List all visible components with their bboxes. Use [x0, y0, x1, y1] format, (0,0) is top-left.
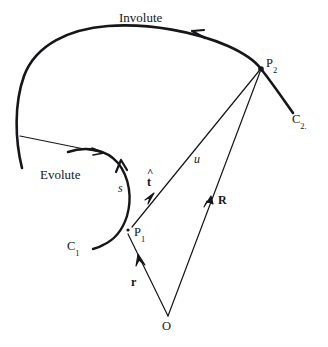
vector-r-arrowhead — [136, 254, 145, 266]
involute-label: Involute — [119, 11, 162, 24]
point-label-p1-subscript: 1 — [141, 234, 145, 244]
tangent-construction-line — [20, 136, 104, 153]
vector-u-label: u — [194, 153, 200, 165]
point-label-p1: P1 — [134, 226, 145, 241]
curve-label-c1-subscript: 1 — [75, 248, 79, 258]
tangent-hat-wrapper: ^t — [147, 176, 151, 188]
curve-label-c1: C1 — [67, 240, 80, 255]
involute-curve — [17, 25, 261, 168]
vector-R-label: R — [218, 194, 227, 206]
evolute-curve-tail — [93, 245, 103, 249]
point-marker-P2 — [258, 66, 264, 72]
involute-curve-tail — [261, 69, 293, 113]
figure-canvas: Involute Evolute P2 P1 C2. C1 O s ^t u r… — [0, 0, 328, 347]
origin-label: O — [162, 320, 171, 333]
point-marker-P1 — [126, 228, 129, 231]
point-label-p2-base: P — [266, 56, 273, 70]
curve-label-c2-subscript: 2. — [300, 121, 306, 131]
evolute-label: Evolute — [40, 168, 80, 181]
vector-u-line — [132, 71, 259, 227]
curve-label-c2: C2. — [292, 113, 307, 128]
tangent-hat-icon: ^ — [147, 167, 151, 178]
tangent-unit-vector-label: ^t — [147, 176, 151, 188]
point-label-p1-base: P — [134, 225, 141, 239]
arc-length-label: s — [118, 182, 123, 194]
vector-r-label: r — [131, 276, 136, 288]
point-label-p2: P2 — [266, 57, 277, 72]
vector-R-arrowhead — [204, 196, 213, 207]
vector-R-line — [168, 72, 260, 316]
point-label-p2-subscript: 2 — [273, 65, 277, 75]
